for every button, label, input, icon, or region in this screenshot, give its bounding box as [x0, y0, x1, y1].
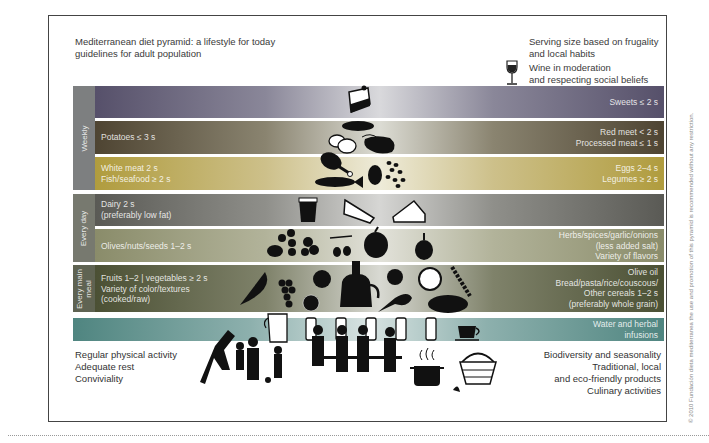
tier-text: Red meet < 2 s Processed meat ≤ 1 s: [576, 127, 658, 148]
tier-line: Variety of flavors: [559, 251, 658, 262]
every-main-meal-label: Every mainmeal: [75, 268, 93, 308]
frequency-label-every-day: Every day: [73, 194, 95, 262]
tier-line: Olive oil: [555, 267, 658, 278]
tier-text: Potatoes ≤ 3 s: [101, 132, 155, 143]
tier-text: Eggs 2–4 s Legumes ≥ 2 s: [602, 163, 658, 184]
tier-line: infusions: [593, 330, 658, 341]
frequency-label-weekly: Weekly: [73, 86, 95, 190]
tier-fruits-vegetables-cereals: Fruits 1–2 | vegetables ≥ 2 s Variety of…: [95, 265, 664, 312]
tier-text: Olives/nuts/seeds 1–2 s: [101, 241, 191, 252]
tier-dairy: Dairy 2 s (preferably low fat): [95, 194, 664, 226]
tier-water: Water and herbal infusions: [73, 318, 664, 341]
tier-line: White meat 2 s: [101, 163, 170, 174]
title-line: Mediterranean diet pyramid: a lifestyle …: [75, 36, 275, 48]
label-line: meal: [84, 280, 93, 297]
lifestyle-line: and eco-friendly products: [544, 373, 661, 385]
lifestyle-line: Regular physical activity: [75, 349, 177, 361]
lifestyle-right: Biodiversity and seasonality Traditional…: [544, 349, 661, 397]
weekly-label: Weekly: [80, 125, 89, 151]
every-day-label: Every day: [80, 210, 89, 246]
pyramid-title: Mediterranean diet pyramid: a lifestyle …: [75, 36, 275, 60]
copyright-notice: © 2010 Fundación dieta mediterranea the …: [688, 113, 694, 423]
tier-white-meat: White meat 2 s Fish/seafood ≥ 2 s Eggs 2…: [95, 157, 664, 190]
tier-line: Eggs 2–4 s: [602, 163, 658, 174]
tier-text: Fruits 1–2 | vegetables ≥ 2 s Variety of…: [101, 273, 208, 305]
wine-glass-icon: [505, 60, 519, 86]
tier-text: Olive oil Bread/pasta/rice/couscous/ Oth…: [555, 267, 658, 309]
tier-text: Sweets ≤ 2 s: [609, 97, 658, 108]
tier-text: Dairy 2 s (preferably low fat): [101, 199, 171, 220]
tier-text: White meat 2 s Fish/seafood ≥ 2 s: [101, 163, 170, 184]
tier-line: (cooked/raw): [101, 294, 208, 305]
tier-line: (preferably low fat): [101, 210, 171, 221]
tier-line: Legumes ≥ 2 s: [602, 174, 658, 185]
lifestyle-line: Adequate rest: [75, 361, 177, 373]
tier-text: Herbs/spices/garlic/onions (less added s…: [559, 230, 658, 262]
serving-note: Serving size based on frugality and loca…: [529, 36, 658, 60]
serving-line: Serving size based on frugality: [529, 36, 658, 48]
tier-line: Variety of color/textures: [101, 284, 208, 295]
tier-text: Water and herbal infusions: [593, 319, 658, 340]
tier-line: Processed meat ≤ 1 s: [576, 138, 658, 149]
frequency-label-every-main-meal: Every mainmeal: [73, 265, 95, 312]
tier-line: Other cereals 1–2 s: [555, 288, 658, 299]
wine-line: and respecting social beliefs: [529, 74, 648, 86]
tier-line: Dairy 2 s: [101, 199, 171, 210]
tier-olives: Olives/nuts/seeds 1–2 s Herbs/spices/gar…: [95, 229, 664, 262]
tier-line: (preferably whole grain): [555, 299, 658, 310]
tier-line: Herbs/spices/garlic/onions: [559, 230, 658, 241]
lifestyle-line: Biodiversity and seasonality: [544, 349, 661, 361]
dotted-divider: [8, 435, 709, 436]
tier-line: Bread/pasta/rice/couscous/: [555, 278, 658, 289]
lifestyle-line: Traditional, local: [544, 361, 661, 373]
lifestyle-line: Conviviality: [75, 373, 177, 385]
title-line: guidelines for adult population: [75, 48, 275, 60]
tier-line: Water and herbal: [593, 319, 658, 330]
wine-line: Wine in moderation: [529, 62, 648, 74]
wine-note: Wine in moderation and respecting social…: [529, 62, 648, 86]
tier-meat: Potatoes ≤ 3 s Red meet < 2 s Processed …: [95, 121, 664, 154]
tier-line: Red meet < 2 s: [576, 127, 658, 138]
label-line: Every main: [75, 268, 84, 308]
serving-line: and local habits: [529, 48, 658, 60]
tier-line: Fruits 1–2 | vegetables ≥ 2 s: [101, 273, 208, 284]
tier-line: (less added salt): [559, 241, 658, 252]
lifestyle-line: Culinary activities: [544, 385, 661, 397]
tier-sweets: Sweets ≤ 2 s: [95, 86, 664, 118]
tier-line: Fish/seafood ≥ 2 s: [101, 174, 170, 185]
lifestyle-left: Regular physical activity Adequate rest …: [75, 349, 177, 385]
